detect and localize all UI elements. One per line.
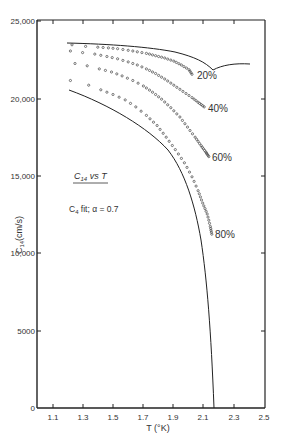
data-point [161,56,163,58]
data-point [97,46,99,48]
data-point [203,205,205,207]
chart-title-annotation: C14 vs T [73,171,108,183]
data-point [155,55,157,57]
series-label-40: 40% [208,103,228,114]
data-point [170,82,172,84]
data-point [205,210,207,212]
data-point [186,166,188,168]
data-point [179,88,181,90]
y-tick-label: 20,000 [11,95,36,104]
data-point [197,190,199,192]
data-point [191,73,193,75]
data-point [191,133,193,135]
data-point [117,58,119,60]
data-point [122,59,124,61]
data-point [183,66,185,68]
data-point [100,54,102,56]
y-tick-label: 25,000 [11,17,36,26]
data-point [145,87,147,89]
data-point [152,121,154,123]
data-point [86,65,88,67]
data-point [171,144,173,146]
y-tick-label: 15,000 [11,172,36,181]
data-point [69,79,71,81]
data-point [158,96,160,98]
data-point [98,68,100,70]
data-point [137,82,139,84]
data-point [196,138,198,140]
data-point [177,153,179,155]
data-point [183,162,185,164]
data-point [176,86,178,88]
data-point [173,84,175,86]
x-axis-label: T (°K) [146,423,169,433]
data-point [170,107,172,109]
data-point [107,47,109,49]
data-point [155,93,157,95]
data-point [208,219,210,221]
data-point [149,118,151,120]
series-label-20: 20% [197,70,217,81]
data-point [180,64,182,66]
data-point [165,136,167,138]
data-point [156,124,158,126]
data-point [142,85,144,87]
x-tick-label: 2.5 [258,413,270,422]
data-point [158,55,160,57]
data-point [189,129,191,131]
data-point [176,113,178,115]
data-point [127,61,129,63]
data-point [94,53,96,55]
data-point [116,73,118,75]
data-point [124,99,126,101]
data-point [200,199,202,201]
svg-text:C14 vs T: C14 vs T [74,171,108,182]
data-point [111,57,113,59]
data-point [180,157,182,159]
data-point [151,71,153,73]
data-point [145,114,147,116]
data-point [104,69,106,71]
data-point [191,176,193,178]
data-point [164,101,166,103]
data-point [158,74,160,76]
data-point [164,78,166,80]
data-point [151,54,153,56]
data-point [188,171,190,173]
data-point [148,69,150,71]
data-point [159,128,161,130]
x-tick-labels: 1.1 1.3 1.5 1.7 1.9 2.1 2.3 2.5 [47,413,270,422]
data-point [194,136,196,138]
data-point [168,140,170,142]
data-point [191,97,193,99]
data-point [181,119,183,121]
data-point [204,208,206,210]
data-point [135,106,137,108]
data-point [174,149,176,151]
data-point [164,57,166,59]
series-label-80: 80% [215,229,235,240]
series-label-60: 60% [212,152,232,163]
data-point [106,91,108,93]
data-point [141,52,143,54]
data-point [185,92,187,94]
data-point [167,80,169,82]
x-tick-label: 1.9 [167,413,179,422]
data-point [188,94,190,96]
data-point [199,143,201,145]
data-point [162,132,164,134]
data-point [122,48,124,50]
data-point [69,50,71,52]
upper-bound-curve [67,43,250,70]
chart: 25,000 20,000 15,000 10,000 5000 0 1.1 1… [0,0,281,445]
data-point [112,47,114,49]
cropped-caption [0,438,281,445]
data-point [182,90,184,92]
data-point [195,185,197,187]
data-point [141,66,143,68]
data-point [121,75,123,77]
y-axis-label: C14(cm/s) [14,216,25,254]
data-point [207,216,209,218]
data-point [193,180,195,182]
y-tick-label: 0 [31,404,36,413]
